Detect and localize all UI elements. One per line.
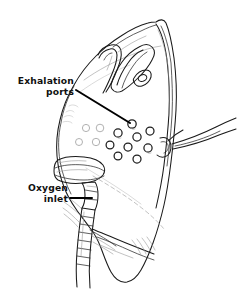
label-oxygen-inlet-line2: inlet — [44, 193, 69, 204]
label-exhalation-ports-line2: ports — [46, 86, 74, 97]
label-exhalation-ports-line1: Exhalation — [18, 75, 74, 86]
label-oxygen-inlet-line1: Oxygen — [28, 182, 68, 193]
oxygen-mask-figure: .ink { fill:none; stroke:#1a1a1a; stroke… — [0, 0, 237, 290]
oxygen-mask-illustration: .ink { fill:none; stroke:#1a1a1a; stroke… — [0, 0, 237, 290]
